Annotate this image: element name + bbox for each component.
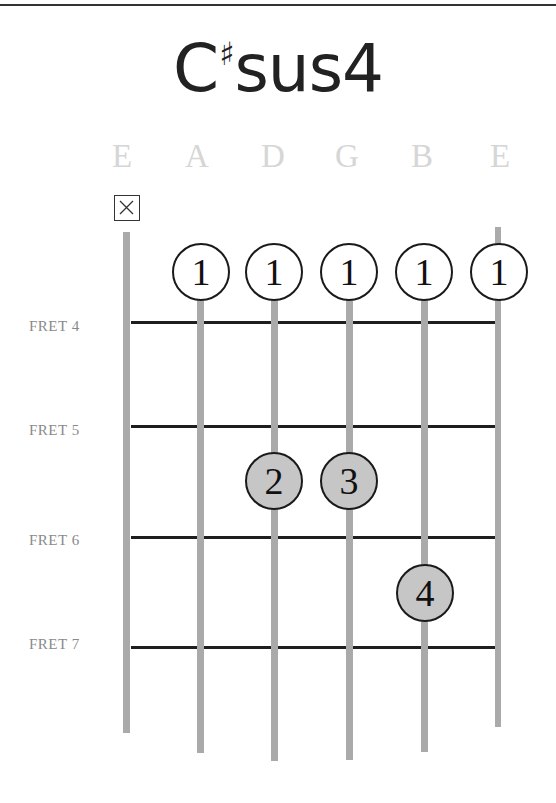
fret-line-6 bbox=[131, 536, 498, 539]
fret-line-7 bbox=[131, 646, 498, 649]
x-box-icon bbox=[114, 195, 140, 221]
fret-line-4 bbox=[131, 321, 498, 324]
string-name-g: G bbox=[327, 140, 367, 173]
chord-quality: sus4 bbox=[234, 30, 383, 107]
fret-line-5 bbox=[131, 425, 498, 428]
string-d bbox=[271, 290, 278, 761]
chord-title: C♯sus4 bbox=[0, 36, 556, 102]
string-a bbox=[197, 290, 204, 753]
string-name-low-e: E bbox=[102, 140, 142, 173]
fret-label-4: FRET 4 bbox=[29, 319, 109, 334]
string-b bbox=[421, 290, 428, 752]
fret-label-7: FRET 7 bbox=[29, 637, 109, 652]
finger-dot-d-1: 1 bbox=[245, 243, 303, 301]
fret-label-5: FRET 5 bbox=[29, 423, 109, 438]
finger-dot-d-2: 2 bbox=[245, 452, 303, 510]
finger-dot-high-e-1: 1 bbox=[470, 243, 528, 301]
string-name-d: D bbox=[253, 140, 293, 173]
chord-accidental: ♯ bbox=[219, 35, 233, 73]
chord-root: C bbox=[173, 30, 218, 107]
fret-label-6: FRET 6 bbox=[29, 533, 109, 548]
string-name-a: A bbox=[177, 140, 217, 173]
finger-dot-b-1: 1 bbox=[395, 243, 453, 301]
finger-dot-a-1: 1 bbox=[172, 243, 230, 301]
string-low-e bbox=[123, 232, 130, 733]
finger-dot-g-1: 1 bbox=[320, 243, 378, 301]
top-rule bbox=[0, 4, 556, 6]
string-g bbox=[346, 290, 353, 760]
finger-dot-b-4: 4 bbox=[396, 564, 454, 622]
string-name-high-e: E bbox=[480, 140, 520, 173]
finger-dot-g-3: 3 bbox=[320, 452, 378, 510]
string-high-e bbox=[495, 227, 501, 727]
string-name-b: B bbox=[402, 140, 442, 173]
